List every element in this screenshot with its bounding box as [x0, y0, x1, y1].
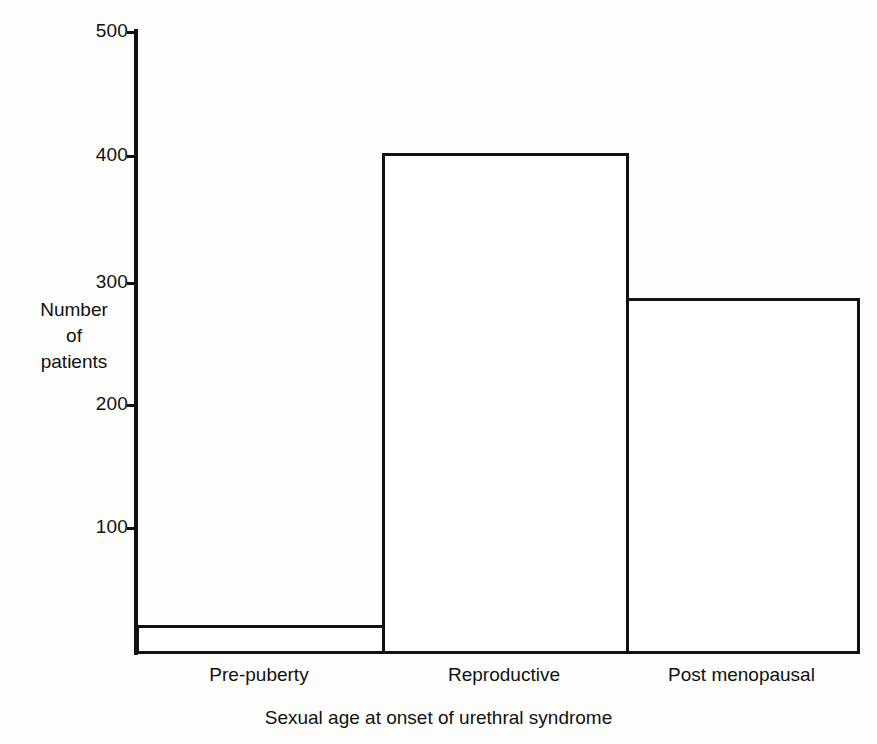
y-axis-line: [134, 29, 138, 655]
y-tick-mark: [127, 155, 136, 158]
y-tick-label: 400: [82, 145, 128, 164]
y-tick-label: 100: [82, 517, 128, 536]
y-tick-mark: [127, 31, 136, 34]
bar-pre-puberty: [136, 625, 385, 654]
y-tick-label: 300: [82, 272, 128, 291]
x-axis-title: Sexual age at onset of urethral syndrome: [0, 707, 877, 729]
y-axis-title: Number of patients: [22, 297, 126, 375]
y-tick-mark: [127, 527, 136, 530]
y-tick-label: 500: [82, 21, 128, 40]
y-axis-title-line-2: of: [22, 323, 126, 349]
y-tick-mark: [127, 282, 136, 285]
bar-reproductive: [382, 153, 629, 654]
bar-chart-figure: 500 400 300 200 100 Number of patients P…: [0, 0, 877, 744]
y-tick-mark: [127, 404, 136, 407]
y-axis-title-line-3: patients: [22, 349, 126, 375]
y-axis-title-line-1: Number: [22, 297, 126, 323]
x-category-label-post-menopausal: Post menopausal: [592, 664, 877, 686]
y-tick-label: 200: [82, 394, 128, 413]
bar-post-menopausal: [626, 298, 860, 654]
